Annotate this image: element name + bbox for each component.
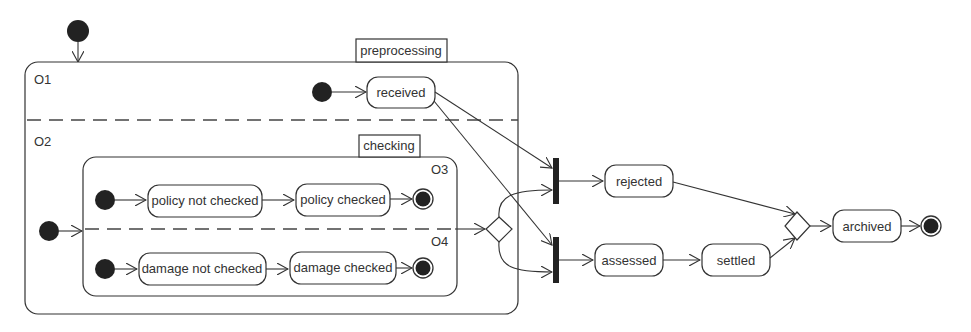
- transition-edge: [673, 182, 795, 214]
- svg-text:rejected: rejected: [616, 174, 662, 189]
- region-label-o1: O1: [34, 72, 51, 87]
- state-diagram: preprocessing O1 O2 received checking O3…: [0, 0, 971, 332]
- checking-label: checking: [363, 138, 414, 153]
- svg-text:damage not checked: damage not checked: [142, 261, 263, 276]
- state-damage-checked[interactable]: damage checked: [290, 252, 396, 284]
- initial-node: [67, 20, 89, 42]
- join-bar-reject: [553, 158, 559, 204]
- state-rejected[interactable]: rejected: [605, 165, 673, 197]
- transition-edge: [770, 238, 795, 258]
- final-node: [921, 216, 941, 236]
- svg-text:received: received: [376, 85, 425, 100]
- initial-node-o3: [95, 190, 115, 210]
- state-assessed[interactable]: assessed: [595, 244, 663, 276]
- state-damage-not-checked[interactable]: damage not checked: [139, 253, 266, 285]
- checking-tab: checking: [359, 135, 420, 157]
- state-received[interactable]: received: [367, 77, 435, 108]
- initial-node-o4: [95, 259, 115, 279]
- state-settled[interactable]: settled: [702, 244, 770, 276]
- state-policy-checked[interactable]: policy checked: [296, 184, 390, 216]
- state-archived[interactable]: archived: [833, 210, 901, 242]
- svg-text:archived: archived: [842, 219, 891, 234]
- svg-text:policy checked: policy checked: [300, 192, 385, 207]
- initial-node-o2: [39, 221, 59, 241]
- region-label-o2: O2: [34, 134, 51, 149]
- initial-node-o1: [312, 82, 332, 102]
- svg-text:settled: settled: [717, 253, 755, 268]
- svg-text:policy not checked: policy not checked: [152, 193, 259, 208]
- svg-text:damage checked: damage checked: [293, 260, 392, 275]
- svg-text:assessed: assessed: [602, 253, 657, 268]
- join-bar-assess: [553, 237, 559, 283]
- final-node-o4: [413, 258, 433, 278]
- region-label-o3: O3: [431, 162, 448, 177]
- region-label-o4: O4: [431, 234, 448, 249]
- preprocessing-tab: preprocessing: [356, 39, 447, 62]
- preprocessing-label: preprocessing: [360, 43, 442, 58]
- final-node-o3: [413, 189, 433, 209]
- merge-node: [785, 212, 810, 240]
- state-policy-not-checked[interactable]: policy not checked: [148, 185, 262, 217]
